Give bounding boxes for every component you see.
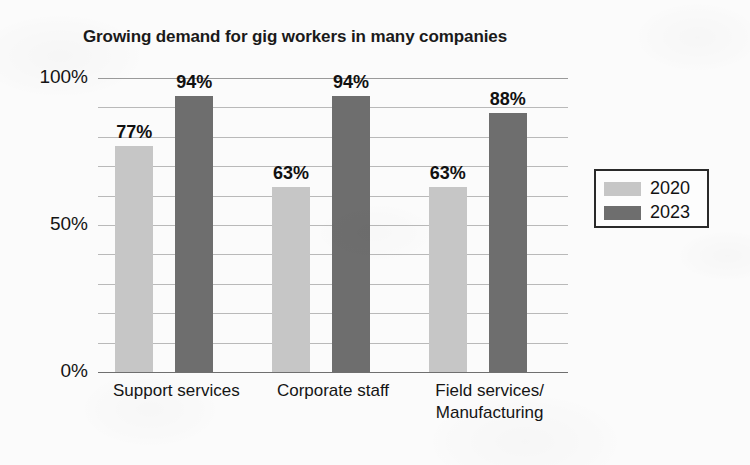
bar-value-label-2023-1: 94%	[326, 72, 376, 93]
bar-value-label-2020-0: 77%	[109, 122, 159, 143]
bar-2023-1	[332, 96, 370, 372]
bar-value-label-2023-0: 94%	[169, 72, 219, 93]
y-axis-tick-50: 50%	[30, 213, 88, 235]
legend-item-2023: 2023	[604, 202, 690, 223]
legend-item-2020: 2020	[604, 178, 690, 199]
bar-value-label-2020-1: 63%	[266, 163, 316, 184]
legend-swatch-2020	[604, 182, 641, 196]
bar-value-label-2023-2: 88%	[483, 89, 533, 110]
legend-swatch-2023	[604, 206, 641, 220]
chart-legend: 2020 2023	[594, 169, 709, 228]
legend-label-2023: 2023	[650, 202, 690, 223]
plot-area	[98, 78, 568, 372]
legend-label-2020: 2020	[650, 178, 690, 199]
bar-chart: Growing demand for gig workers in many c…	[0, 0, 750, 465]
bar-2020-1	[272, 187, 310, 372]
x-axis-category-label-2: Field services/ Manufacturing	[393, 380, 586, 424]
bar-2020-2	[429, 187, 467, 372]
bar-2023-2	[489, 113, 527, 372]
chart-title: Growing demand for gig workers in many c…	[0, 27, 750, 47]
y-axis-tick-100: 100%	[30, 66, 88, 88]
bar-2023-0	[175, 96, 213, 372]
bar-value-label-2020-2: 63%	[423, 163, 473, 184]
bar-2020-0	[115, 146, 153, 372]
y-axis-tick-0: 0%	[30, 360, 88, 382]
gridline-0	[98, 372, 568, 373]
